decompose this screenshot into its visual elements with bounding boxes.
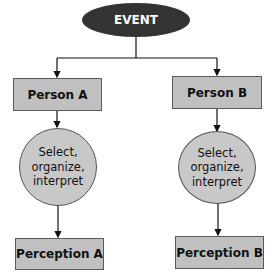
perception-b-label: Perception B (176, 246, 263, 260)
person-b-node: Person B (172, 76, 262, 109)
process-a-node: Select, organize, interpret (19, 128, 97, 206)
perception-a-node: Perception A (15, 238, 104, 270)
person-b-label: Person B (187, 86, 247, 100)
person-a-node: Person A (13, 78, 102, 111)
perception-b-node: Perception B (175, 236, 264, 269)
event-label: EVENT (114, 13, 158, 27)
process-b-label: Select, organize, interpret (190, 146, 243, 189)
person-a-label: Person A (27, 88, 87, 102)
process-b-node: Select, organize, interpret (178, 131, 256, 204)
event-node: EVENT (82, 3, 190, 37)
process-a-label: Select, organize, interpret (31, 145, 84, 188)
perception-a-label: Perception A (16, 247, 103, 261)
